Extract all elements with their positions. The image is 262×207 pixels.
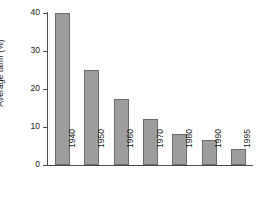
y-axis-tick-label: 10 — [31, 121, 40, 132]
x-axis-tick-label: 1995 — [242, 129, 253, 169]
y-axis-tick-label: 0 — [35, 159, 40, 170]
y-axis-tick: 0 — [0, 165, 47, 166]
y-axis-tick-label: 40 — [31, 7, 40, 18]
y-axis-tick: 30 — [0, 51, 47, 52]
x-axis-tick-label: 1980 — [184, 129, 195, 169]
y-axis-tick: 10 — [0, 127, 47, 128]
x-axis-tick-label: 1950 — [96, 129, 107, 169]
bar-chart-figure: Average tariff (%) 010203040 19401950196… — [0, 0, 262, 207]
y-axis-tick-mark — [43, 165, 47, 166]
y-axis-title: Average tariff (%) — [0, 0, 8, 158]
y-axis-tick-label: 20 — [31, 83, 40, 94]
x-axis-tick-label: 1940 — [67, 129, 78, 169]
x-axis-tick-label: 1990 — [213, 129, 224, 169]
x-axis-tick-label: 1970 — [155, 129, 166, 169]
y-axis-tick-label: 30 — [31, 45, 40, 56]
y-axis-tick: 40 — [0, 13, 47, 14]
y-axis-tick: 20 — [0, 89, 47, 90]
x-axis-tick-label: 1960 — [125, 129, 136, 169]
